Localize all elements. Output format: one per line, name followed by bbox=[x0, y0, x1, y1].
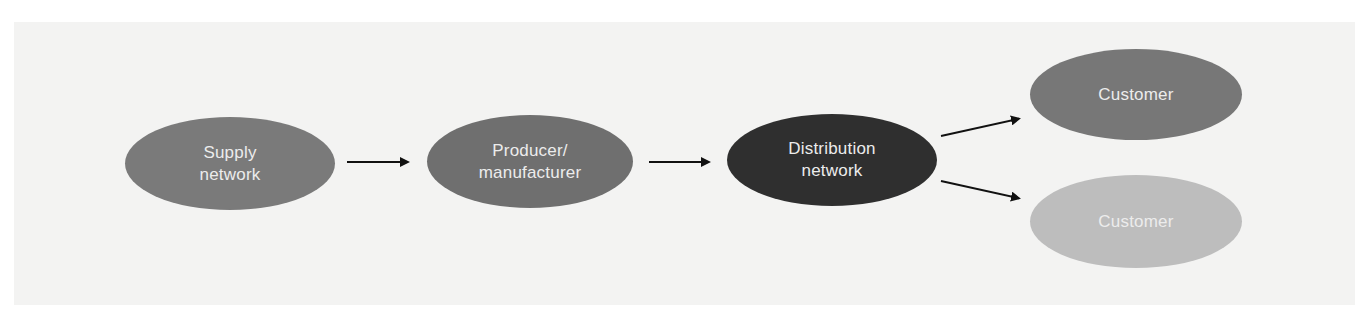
node-label: Supply network bbox=[200, 142, 261, 186]
node-label: Distribution network bbox=[788, 138, 875, 182]
node-distribution-network: Distribution network bbox=[727, 114, 937, 206]
node-customer-2: Customer bbox=[1030, 175, 1242, 268]
node-label: Customer bbox=[1098, 211, 1173, 233]
node-producer-manufacturer: Producer/ manufacturer bbox=[427, 115, 633, 208]
node-label: Customer bbox=[1098, 84, 1173, 106]
node-customer-1: Customer bbox=[1030, 49, 1242, 140]
node-label: Producer/ manufacturer bbox=[479, 140, 582, 184]
node-supply-network: Supply network bbox=[125, 117, 335, 210]
